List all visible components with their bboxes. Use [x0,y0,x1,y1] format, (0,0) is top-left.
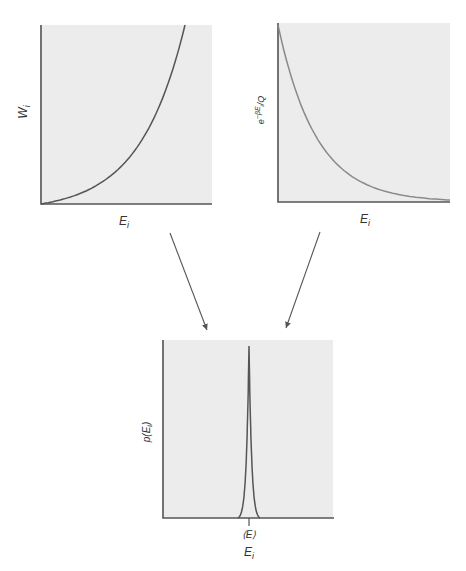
x-axis-label: Ei [244,545,255,561]
y-axis-label: Wi [16,104,32,118]
arrow-right [286,232,320,328]
y-axis-label: e−βEi/Q [254,96,266,124]
x-axis-label: Ei [119,214,130,230]
degeneracy-panel: Wi Ei [16,25,212,230]
y-axis-label: p(Ei) [141,422,153,443]
probability-panel: p(Ei) ⟨E⟩ Ei [141,340,334,561]
boltzmann-panel: e−βEi/Q Ei [254,23,450,228]
figure: Wi Ei e−βEi/Q Ei p(Ei) ⟨E⟩ Ei [0,0,466,571]
mean-energy-label: ⟨E⟩ [242,529,257,540]
panel-background [277,23,450,202]
panel-background [40,25,212,204]
x-axis-label: Ei [360,212,371,228]
arrow-left [170,233,207,330]
